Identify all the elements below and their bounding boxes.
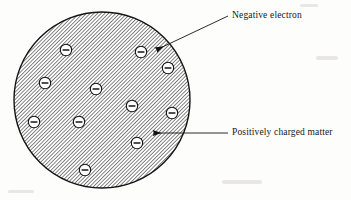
electron <box>162 62 173 73</box>
electron <box>90 83 101 94</box>
leader-line-negative-electron <box>156 16 228 50</box>
electron <box>79 164 90 175</box>
electron <box>60 44 71 55</box>
annotation-label-negative-electron: Negative electron <box>232 11 302 21</box>
electron <box>39 77 50 88</box>
electron <box>131 137 142 148</box>
positively-charged-matter-sphere <box>14 12 190 188</box>
electron <box>126 100 137 111</box>
electron <box>73 116 84 127</box>
plum-pudding-diagram <box>0 0 351 200</box>
annotation-label-positively-charged-matter: Positively charged matter <box>232 128 333 138</box>
electron <box>28 116 39 127</box>
electron <box>166 107 177 118</box>
diagram-canvas: Negative electron Positively charged mat… <box>0 0 351 200</box>
electron <box>135 46 146 57</box>
